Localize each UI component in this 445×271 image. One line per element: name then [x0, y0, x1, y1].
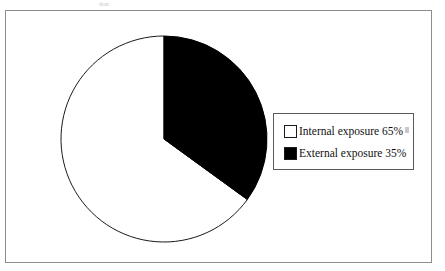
chart-legend: Internal exposure 65% External exposure …	[273, 113, 414, 170]
legend-smudge-artifact	[405, 127, 409, 133]
scan-artifact-text: tion	[99, 0, 117, 8]
page-canvas: tion Internal exposure 65% External expo…	[0, 0, 445, 271]
legend-swatch-white-icon	[284, 125, 297, 138]
pie-chart	[58, 33, 270, 245]
legend-label-external-exposure: External exposure 35%	[299, 147, 406, 160]
chart-frame: Internal exposure 65% External exposure …	[5, 10, 432, 263]
plot-area: Internal exposure 65% External exposure …	[6, 11, 431, 262]
legend-item-external-exposure: External exposure 35%	[284, 145, 406, 161]
legend-label-internal-exposure: Internal exposure 65%	[299, 125, 403, 138]
legend-item-internal-exposure: Internal exposure 65%	[284, 123, 403, 139]
legend-swatch-black-icon	[284, 147, 297, 160]
